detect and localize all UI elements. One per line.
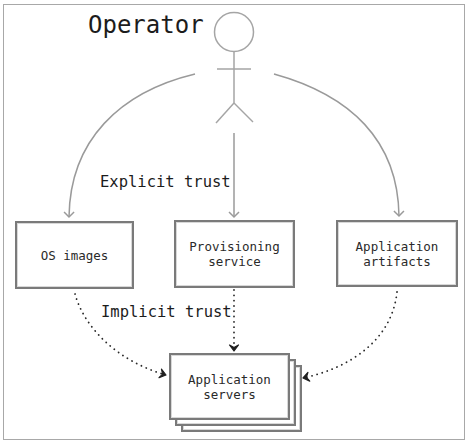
explicit-trust-label: Explicit trust — [100, 173, 231, 191]
node-label-line-1: Provisioning — [189, 239, 279, 254]
node-label-line-2: servers — [188, 387, 271, 402]
node-os-images: OS images — [15, 221, 134, 289]
node-label-line-1: Application — [356, 239, 439, 254]
implicit-trust-label: Implicit trust — [101, 303, 232, 321]
node-label-line-2: artifacts — [356, 254, 439, 269]
node-label-line-2: service — [189, 254, 279, 269]
explicit-arrow-os-images — [69, 74, 195, 217]
node-provisioning-service: Provisioning service — [174, 220, 295, 288]
implicit-arrow-artifacts — [303, 292, 397, 378]
node-application-artifacts: Application artifacts — [336, 220, 458, 287]
node-label: OS images — [41, 248, 109, 263]
explicit-arrow-artifacts — [274, 74, 399, 216]
node-application-servers: Application servers — [169, 353, 290, 420]
operator-title: Operator — [88, 11, 204, 39]
node-label-line-1: Application — [188, 372, 271, 387]
stick-figure-icon — [215, 13, 254, 124]
